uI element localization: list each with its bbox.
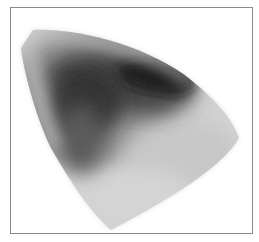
density-plot (11, 8, 252, 233)
image-frame (10, 7, 253, 234)
density-body (11, 8, 252, 233)
